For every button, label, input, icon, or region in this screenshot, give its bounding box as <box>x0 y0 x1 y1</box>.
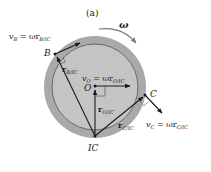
point-O <box>94 85 97 88</box>
equation-v-C: vC = ωrC/IC <box>146 120 188 130</box>
omega-label: ω <box>119 19 129 30</box>
point-B <box>54 53 57 56</box>
figure-caption: (a) <box>86 8 98 18</box>
label-B: B <box>43 48 51 58</box>
point-IC <box>94 135 97 138</box>
label-O: O <box>84 83 92 93</box>
instantaneous-center-diagram: (a) ω B O C IC vB = ωrB/IC vO = ωrO/IC v… <box>0 0 211 172</box>
equation-v-B: vB = ωrB/IC <box>9 32 51 42</box>
point-C <box>144 94 147 97</box>
label-C: C <box>150 89 157 99</box>
label-IC: IC <box>87 143 99 153</box>
